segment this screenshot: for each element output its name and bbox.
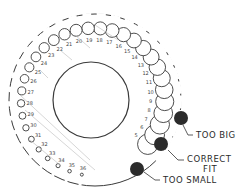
gauge-number: 14 bbox=[131, 54, 137, 60]
gauge-number: 15 bbox=[124, 48, 130, 54]
gauge-number: 9 bbox=[149, 98, 152, 104]
center-hole bbox=[53, 62, 129, 138]
label-correct: CORRECT bbox=[187, 154, 232, 164]
gauge-number: 22 bbox=[57, 46, 63, 52]
gauge-number: 21 bbox=[66, 41, 72, 47]
gauge-number: 27 bbox=[28, 89, 34, 95]
label-too-small: TOO SMALL bbox=[162, 175, 217, 185]
gauge-number: 19 bbox=[86, 37, 92, 43]
label-too-big: TOO BIG bbox=[195, 130, 236, 140]
gauge-number: 32 bbox=[41, 141, 47, 147]
wire-correct-fit bbox=[154, 137, 168, 151]
label-fit: FIT bbox=[203, 164, 217, 174]
gauge-number: 23 bbox=[48, 52, 54, 58]
gauge-number: 11 bbox=[146, 79, 152, 85]
gauge-number: 13 bbox=[138, 62, 144, 68]
gauge-number: 25 bbox=[35, 69, 41, 75]
gauge-number: 33 bbox=[49, 150, 55, 156]
gauge-number: 7 bbox=[145, 116, 148, 122]
gauge-number: 30 bbox=[30, 122, 36, 128]
gauge-number: 36 bbox=[80, 165, 86, 171]
gauge-number: 34 bbox=[58, 157, 64, 163]
wire-gauge-diagram: 5678910111213141516171819202122232425262… bbox=[0, 0, 252, 196]
gauge-number: 12 bbox=[142, 70, 148, 76]
gauge-number: 28 bbox=[27, 100, 33, 106]
gauge-number: 35 bbox=[69, 162, 75, 168]
gauge-number: 16 bbox=[115, 43, 121, 49]
gauge-number: 31 bbox=[35, 132, 41, 138]
wire-too-big bbox=[174, 111, 188, 125]
gauge-number: 26 bbox=[30, 78, 36, 84]
gauge-number: 24 bbox=[41, 60, 47, 66]
gauge-number: 18 bbox=[96, 37, 102, 43]
gauge-number: 17 bbox=[106, 39, 112, 45]
gauge-number: 8 bbox=[148, 107, 151, 113]
wire-too-small bbox=[130, 162, 144, 176]
gauge-number: 10 bbox=[147, 89, 153, 95]
gauge-number: 29 bbox=[28, 111, 34, 117]
gauge-number: 5 bbox=[135, 132, 138, 138]
gauge-number: 6 bbox=[140, 124, 143, 130]
